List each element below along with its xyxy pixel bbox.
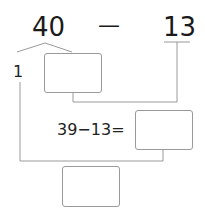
minus-operator: — (98, 12, 120, 38)
minuend: 40 (32, 14, 65, 40)
answer-box-3[interactable] (62, 166, 120, 207)
answer-box-1[interactable] (44, 53, 102, 93)
sub-equation: 39−13= (57, 122, 125, 138)
subtrahend: 13 (163, 14, 196, 40)
split-part: 1 (13, 64, 23, 80)
answer-box-2[interactable] (135, 110, 193, 150)
